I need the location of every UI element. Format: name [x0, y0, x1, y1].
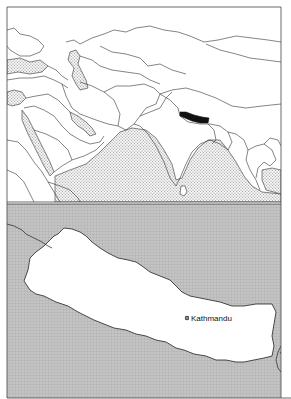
kathmandu-label: Kathmandu [191, 314, 232, 323]
map-figure: Kathmandu [0, 0, 291, 399]
overview-map [7, 7, 281, 202]
city-kathmandu: Kathmandu [185, 314, 232, 323]
nepal-detail-map: Kathmandu [7, 204, 283, 398]
